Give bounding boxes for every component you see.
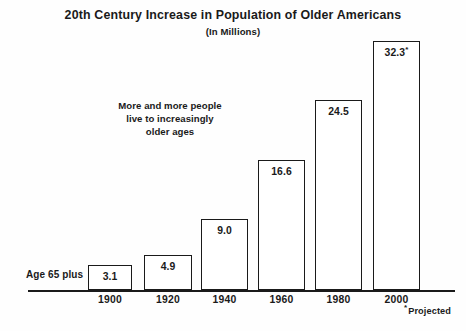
x-axis-line <box>28 290 455 292</box>
series-caption: Age 65 plus <box>26 269 83 280</box>
bar-1980: 24.5 <box>315 100 362 290</box>
bar-1960: 16.6 <box>258 160 305 290</box>
tick-label-1960: 1960 <box>258 294 305 305</box>
bar-value-1940: 9.0 <box>202 225 247 236</box>
bar-1900: 3.1 <box>88 265 132 290</box>
projected-marker-icon: * <box>405 45 408 54</box>
bar-value-1980: 24.5 <box>316 106 361 117</box>
bar-1940: 9.0 <box>201 219 248 290</box>
tick-label-1900: 1900 <box>88 294 132 305</box>
tick-label-1920: 1920 <box>144 294 192 305</box>
tick-label-1940: 1940 <box>201 294 248 305</box>
bar-2000: 32.3* <box>373 41 420 290</box>
bar-1920: 4.9 <box>144 255 192 290</box>
plot-area: Age 65 plus 3.1 1900 4.9 1920 9.0 1940 1… <box>0 0 466 331</box>
tick-label-2000: 2000 <box>373 294 420 305</box>
bar-value-1960: 16.6 <box>259 166 304 177</box>
bar-value-2000: 32.3* <box>374 47 419 58</box>
footnote-marker-icon: * <box>404 303 407 312</box>
tick-label-1980: 1980 <box>315 294 362 305</box>
bar-value-1920: 4.9 <box>145 261 191 272</box>
footnote-text: Projected <box>408 306 451 316</box>
bar-value-1900: 3.1 <box>89 271 131 282</box>
chart-footnote: *Projected <box>404 306 451 316</box>
chart-container: 20th Century Increase in Population of O… <box>0 0 466 331</box>
